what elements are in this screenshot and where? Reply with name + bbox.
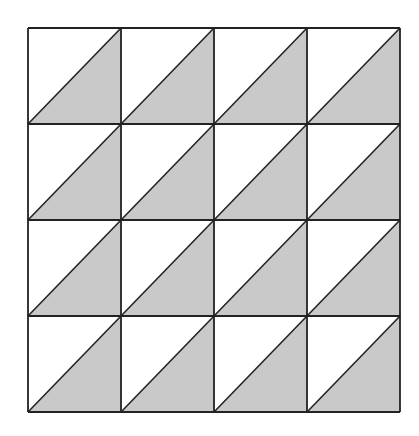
triangle-grid-diagram bbox=[0, 0, 419, 436]
